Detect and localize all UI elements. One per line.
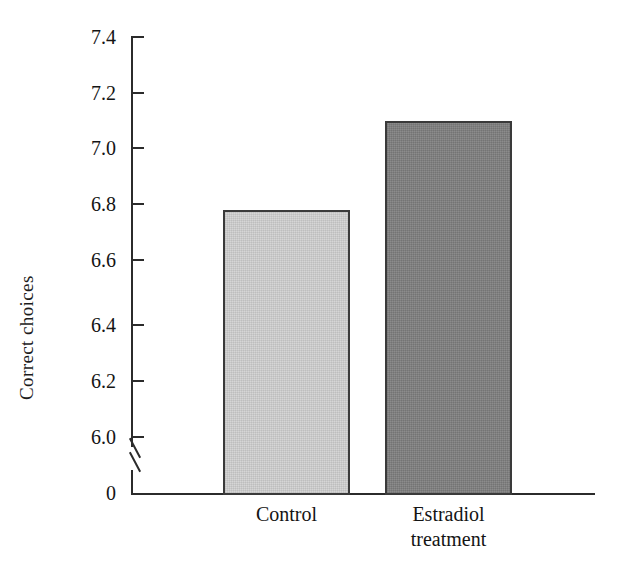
y-tick-mark-7-4: [133, 36, 144, 38]
y-tick-mark-6-0: [133, 436, 144, 438]
bar-control[interactable]: [223, 210, 350, 495]
bar-estradiol-treatment[interactable]: [385, 121, 512, 495]
axis-break-icon: [120, 441, 150, 475]
y-tick-mark-7-2: [133, 92, 144, 94]
y-tick-label-7-2: 7.2: [54, 83, 116, 103]
y-tick-label-7-0: 7.0: [54, 138, 116, 158]
bar-chart-figure: Correct choices 7.4 7.2 7.0 6.8 6.6 6.4 …: [0, 0, 623, 575]
y-tick-label-6-0: 6.0: [54, 427, 116, 447]
y-axis-label: Correct choices: [16, 100, 50, 400]
x-tick-label-control: Control: [206, 502, 367, 527]
y-tick-label-7-4: 7.4: [54, 27, 116, 47]
y-tick-mark-6-4: [133, 324, 144, 326]
y-tick-mark-6-6: [133, 259, 144, 261]
x-tick-label-estradiol: Estradiol treatment: [368, 502, 529, 552]
x-tick-label-estradiol-line1: Estradiol: [368, 502, 529, 527]
y-tick-label-0: 0: [54, 483, 116, 503]
y-tick-mark-6-8: [133, 203, 144, 205]
y-tick-mark-7-0: [133, 147, 144, 149]
y-tick-label-6-8: 6.8: [54, 194, 116, 214]
y-tick-mark-6-2: [133, 380, 144, 382]
x-tick-label-estradiol-line2: treatment: [368, 527, 529, 552]
y-axis-line-upper: [131, 36, 133, 447]
y-axis-tick-labels: 7.4 7.2 7.0 6.8 6.6 6.4 6.2 6.0 0: [54, 0, 116, 575]
y-tick-label-6-6: 6.6: [54, 250, 116, 270]
x-axis-line: [131, 493, 595, 495]
y-tick-label-6-4: 6.4: [54, 315, 116, 335]
y-tick-label-6-2: 6.2: [54, 371, 116, 391]
